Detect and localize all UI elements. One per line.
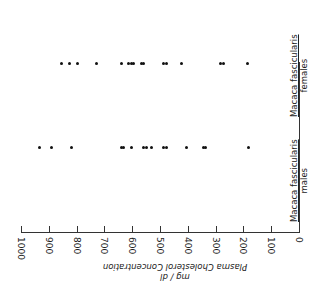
- data-point: [162, 62, 165, 65]
- tick-label: 900: [44, 237, 54, 254]
- data-point: [130, 146, 133, 149]
- group-species: Macaca fascicularis: [289, 139, 299, 222]
- axis-title-text: Plasma Cholesterol Concentration: [95, 262, 255, 272]
- data-point: [122, 146, 125, 149]
- group-label-females: Macaca fascicularis females: [289, 34, 309, 117]
- tick-mark: [271, 226, 272, 232]
- tick-label: 700: [99, 237, 109, 254]
- tick-label: 800: [72, 237, 82, 254]
- tick-label: 200: [238, 237, 248, 254]
- data-point: [120, 62, 123, 65]
- data-point: [165, 146, 168, 149]
- tick-label: 0: [294, 237, 304, 243]
- axis-title: mg / dl Plasma Cholesterol Concentration: [95, 262, 255, 282]
- data-point: [204, 146, 207, 149]
- tick-label: 100: [266, 237, 276, 254]
- tick-mark: [216, 226, 217, 232]
- tick-mark: [104, 226, 105, 232]
- group-sex: females: [299, 34, 309, 117]
- data-point: [68, 62, 71, 65]
- tick-label: 1000: [16, 237, 26, 260]
- tick-mark: [243, 226, 244, 232]
- tick-mark: [21, 226, 22, 232]
- data-point: [247, 146, 250, 149]
- data-point: [165, 62, 168, 65]
- data-point: [180, 62, 183, 65]
- tick-mark: [49, 226, 50, 232]
- data-point: [50, 146, 53, 149]
- data-point: [145, 146, 148, 149]
- tick-mark: [132, 226, 133, 232]
- data-point: [70, 146, 73, 149]
- data-point: [142, 62, 145, 65]
- data-point: [150, 146, 153, 149]
- group-species: Macaca fascicularis: [289, 34, 299, 117]
- tick-label: 600: [127, 237, 137, 254]
- data-point: [95, 62, 98, 65]
- tick-label: 300: [211, 237, 221, 254]
- group-label-males: Macaca fascicularis males: [289, 139, 309, 222]
- tick-label: 500: [155, 237, 165, 254]
- data-point: [222, 62, 225, 65]
- tick-mark: [160, 226, 161, 232]
- group-sex: males: [299, 139, 309, 222]
- data-point: [76, 62, 79, 65]
- data-point: [246, 62, 249, 65]
- value-axis-line: [21, 232, 300, 233]
- data-point: [38, 146, 41, 149]
- axis-units: mg / dl: [95, 272, 255, 282]
- tick-label: 400: [183, 237, 193, 254]
- tick-mark: [188, 226, 189, 232]
- tick-mark: [299, 226, 300, 232]
- data-point: [132, 62, 135, 65]
- data-point: [185, 146, 188, 149]
- data-point: [60, 62, 63, 65]
- tick-mark: [77, 226, 78, 232]
